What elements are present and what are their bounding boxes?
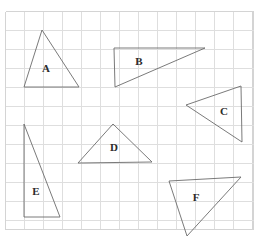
triangle-d-label: D bbox=[110, 141, 118, 153]
shapes-layer bbox=[24, 30, 242, 236]
triangle-a-label: A bbox=[42, 62, 50, 74]
triangle-a[interactable] bbox=[24, 30, 79, 87]
worksheet-canvas: ABCDEF bbox=[0, 0, 277, 244]
triangles-grid-figure: ABCDEF bbox=[0, 0, 277, 244]
triangle-b[interactable] bbox=[114, 48, 205, 87]
triangle-c-label: C bbox=[220, 105, 228, 117]
triangle-e[interactable] bbox=[24, 124, 60, 217]
triangle-f[interactable] bbox=[169, 177, 241, 236]
triangle-f-label: F bbox=[193, 191, 200, 203]
triangle-e-label: E bbox=[32, 185, 39, 197]
triangle-b-label: B bbox=[135, 55, 143, 67]
